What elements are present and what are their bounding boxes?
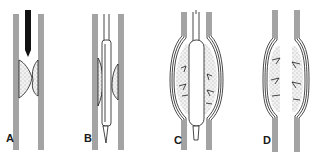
panel-d — [263, 10, 309, 152]
panel-c — [170, 10, 223, 150]
guide-catheter — [25, 10, 31, 57]
panel-label-d: D — [263, 134, 271, 146]
angioplasty-diagram — [0, 0, 319, 155]
panel-label-b: B — [84, 132, 92, 144]
panel-a — [14, 10, 43, 150]
panel-label-c: C — [174, 134, 182, 146]
panel-b — [93, 14, 123, 150]
panel-label-a: A — [6, 132, 14, 144]
